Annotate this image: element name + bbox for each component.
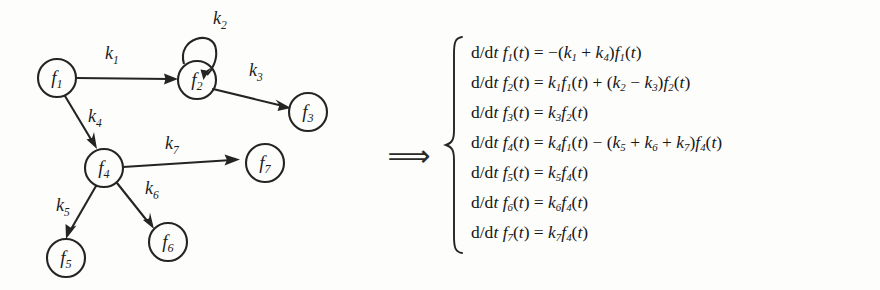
rate-label-k6: k6 [145, 179, 159, 201]
equation-row: d/dt f5(t) = k5f4(t) [471, 160, 880, 190]
node-label-f4: f4 [98, 158, 109, 181]
figure-canvas: f1 f2 f3 f4 f5 f6 f7 k1 k2 k3 k4 k5 k6 k… [0, 0, 880, 290]
equation-list: d/dt f1(t) = −(k1 + k4)f1(t) d/dt f2(t) … [465, 34, 880, 256]
edge-k1 [76, 74, 178, 85]
rate-label-k3: k3 [249, 61, 263, 83]
rate-label-k5: k5 [56, 196, 70, 218]
rate-label-k4: k4 [88, 107, 102, 129]
system-brace: { [443, 34, 465, 256]
equation-row: d/dt f7(t) = k7f4(t) [471, 220, 880, 250]
rate-label-k2: k2 [213, 9, 227, 31]
reaction-graph-panel: f1 f2 f3 f4 f5 f6 f7 k1 k2 k3 k4 k5 k6 k… [0, 0, 440, 290]
equation-row: d/dt f4(t) = k4f1(t) − (k5 + k6 + k7)f4(… [471, 130, 880, 160]
node-label-f7: f7 [259, 153, 270, 176]
rate-label-k1: k1 [105, 44, 119, 66]
equation-row: d/dt f2(t) = k1f1(t) + (k2 − k3)f2(t) [471, 70, 880, 100]
node-label-f6: f6 [162, 232, 173, 255]
ode-system-panel: { d/dt f1(t) = −(k1 + k4)f1(t) d/dt f2(t… [443, 34, 880, 256]
rate-label-k7: k7 [165, 134, 179, 156]
implication-arrow-icon: ⟹ [381, 139, 437, 173]
edge-k3 [213, 89, 291, 111]
equation-row: d/dt f1(t) = −(k1 + k4)f1(t) [471, 40, 880, 70]
equation-row: d/dt f6(t) = k6f4(t) [471, 190, 880, 220]
node-label-f5: f5 [60, 248, 71, 271]
node-label-f1: f1 [51, 68, 62, 91]
reaction-graph-svg [0, 0, 440, 290]
edge-k7 [123, 155, 240, 168]
node-label-f2: f2 [191, 70, 202, 93]
equation-row: d/dt f3(t) = k3f2(t) [471, 100, 880, 130]
node-label-f3: f3 [302, 102, 313, 125]
